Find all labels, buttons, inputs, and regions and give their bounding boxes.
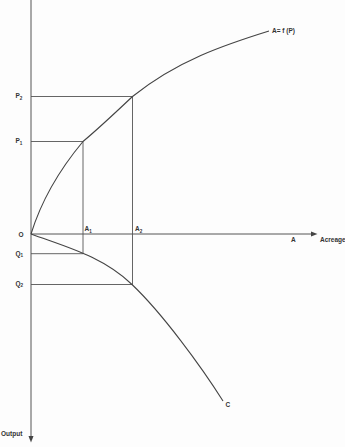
label-a1: A1 (85, 225, 93, 234)
x-axis-arrow-icon (311, 232, 318, 237)
label-a2-sub: 2 (140, 229, 143, 234)
label-x-axis-end: A (291, 236, 296, 243)
label-a2: A2 (135, 225, 143, 234)
label-p1-sub: 1 (20, 141, 23, 146)
y-axis-title: Output (1, 430, 23, 438)
label-q1-sub: 1 (21, 253, 24, 258)
label-p2-sub: 2 (20, 96, 23, 101)
curve-c (31, 234, 223, 401)
x-axis-title: Acreage (320, 236, 345, 244)
label-q2: Q2 (16, 280, 24, 289)
curve-a-equals-f-of-p (31, 31, 269, 234)
curve-upper-label: A= f (P) (272, 27, 295, 35)
curve-lower-label: C (226, 401, 231, 408)
label-origin: O (19, 231, 24, 238)
label-q2-sub: 2 (21, 283, 24, 288)
label-p1: P1 (16, 137, 23, 146)
y-axis-arrow-icon (29, 436, 34, 443)
label-q1: Q1 (16, 250, 24, 259)
acreage-output-diagram: A= f (P) C P2 P1 O Q1 Q2 A1 A2 A Acreage… (0, 0, 345, 447)
label-p2: P2 (16, 92, 23, 101)
label-a1-sub: 1 (89, 229, 92, 234)
